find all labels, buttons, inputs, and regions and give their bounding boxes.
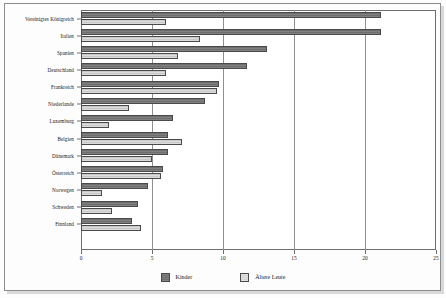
x-axis-tick-label: 10 bbox=[220, 255, 225, 261]
bar-aeltere-leute bbox=[81, 122, 109, 128]
bar-kinder bbox=[81, 149, 168, 155]
bar-aeltere-leute bbox=[81, 173, 161, 179]
y-axis-label: Belgien bbox=[58, 136, 75, 142]
bar-row bbox=[81, 147, 436, 164]
bar-row bbox=[81, 61, 436, 78]
legend-swatch-aeltere-icon bbox=[240, 273, 249, 282]
bar-row bbox=[81, 10, 436, 27]
bar-aeltere-leute bbox=[81, 53, 178, 59]
y-axis-label-row: Österreich bbox=[0, 164, 81, 181]
y-tick-mark bbox=[77, 121, 81, 122]
y-tick-mark bbox=[77, 189, 81, 190]
bar-aeltere-leute bbox=[81, 36, 200, 42]
x-axis-tick-label: 5 bbox=[151, 255, 154, 261]
bar-aeltere-leute bbox=[81, 225, 141, 231]
bar-kinder bbox=[81, 81, 219, 87]
bar-row bbox=[81, 27, 436, 44]
y-axis-label-row: Frankreich bbox=[0, 79, 81, 96]
x-tick-mark bbox=[365, 250, 366, 254]
bar-aeltere-leute bbox=[81, 139, 182, 145]
bar-aeltere-leute bbox=[81, 156, 152, 162]
y-axis-label-row: Luxemburg bbox=[0, 113, 81, 130]
legend-swatch-kinder-icon bbox=[161, 273, 170, 282]
y-axis-label-row: Norwegen bbox=[0, 181, 81, 198]
bar-kinder bbox=[81, 201, 138, 207]
bar-aeltere-leute bbox=[81, 105, 129, 111]
chart-legend: KinderÄltere Leute bbox=[0, 270, 446, 284]
bar-row bbox=[81, 181, 436, 198]
y-axis-label: Spanien bbox=[57, 50, 74, 56]
x-axis-ticks: 0510152025 bbox=[81, 250, 436, 264]
y-axis-label-row: Belgien bbox=[0, 130, 81, 147]
y-tick-mark bbox=[77, 155, 81, 156]
bar-rows bbox=[81, 10, 436, 250]
bar-row bbox=[81, 44, 436, 61]
bar-kinder bbox=[81, 166, 163, 172]
x-tick-mark bbox=[436, 250, 437, 254]
legend-item-aeltere[interactable]: Ältere Leute bbox=[240, 273, 285, 282]
y-axis-label: Norwegen bbox=[52, 187, 74, 193]
bar-kinder bbox=[81, 183, 148, 189]
y-tick-mark bbox=[77, 35, 81, 36]
bar-kinder bbox=[81, 132, 168, 138]
y-axis-label: Luxemburg bbox=[49, 118, 74, 124]
y-axis-labels: Vereinigtes KönigreichItalienSpanienDeut… bbox=[0, 10, 81, 250]
y-axis-label-row: Vereinigtes Königreich bbox=[0, 10, 81, 27]
bar-row bbox=[81, 130, 436, 147]
x-axis-tick-label: 25 bbox=[433, 255, 438, 261]
chart-container: Vereinigtes KönigreichItalienSpanienDeut… bbox=[0, 0, 446, 298]
y-axis-label: Italien bbox=[60, 33, 74, 39]
y-tick-mark bbox=[77, 172, 81, 173]
y-axis-label: Deutschland bbox=[48, 67, 74, 73]
y-axis-label: Schweden bbox=[52, 204, 74, 210]
y-axis-label: Niederlande bbox=[48, 101, 74, 107]
x-axis-tick-label: 20 bbox=[362, 255, 367, 261]
x-tick-mark bbox=[294, 250, 295, 254]
y-axis-label-row: Spanien bbox=[0, 44, 81, 61]
x-tick-mark bbox=[152, 250, 153, 254]
y-axis-label: Dänemark bbox=[52, 153, 74, 159]
legend-label: Ältere Leute bbox=[255, 274, 285, 280]
bar-row bbox=[81, 113, 436, 130]
x-axis-tick-label: 0 bbox=[80, 255, 83, 261]
y-tick-mark bbox=[77, 69, 81, 70]
y-tick-mark bbox=[77, 138, 81, 139]
bar-aeltere-leute bbox=[81, 190, 102, 196]
bar-aeltere-leute bbox=[81, 70, 166, 76]
y-axis-label-row: Italien bbox=[0, 27, 81, 44]
bar-kinder bbox=[81, 12, 381, 18]
y-tick-mark bbox=[77, 104, 81, 105]
y-axis-label: Österreich bbox=[52, 170, 74, 176]
y-tick-mark bbox=[77, 52, 81, 53]
x-tick-mark bbox=[81, 250, 82, 254]
bar-kinder bbox=[81, 218, 132, 224]
y-tick-mark bbox=[77, 18, 81, 19]
bar-aeltere-leute bbox=[81, 88, 217, 94]
bar-row bbox=[81, 216, 436, 233]
bar-row bbox=[81, 79, 436, 96]
bar-aeltere-leute bbox=[81, 208, 112, 214]
bar-kinder bbox=[81, 98, 205, 104]
legend-label: Kinder bbox=[176, 274, 193, 280]
bar-kinder bbox=[81, 29, 381, 35]
y-axis-label: Frankreich bbox=[51, 84, 74, 90]
y-tick-mark bbox=[77, 87, 81, 88]
y-axis-label-row: Niederlande bbox=[0, 96, 81, 113]
bar-kinder bbox=[81, 46, 267, 52]
y-tick-mark bbox=[77, 224, 81, 225]
bar-kinder bbox=[81, 115, 173, 121]
bar-row bbox=[81, 164, 436, 181]
x-axis-tick-label: 15 bbox=[291, 255, 296, 261]
y-tick-mark bbox=[77, 207, 81, 208]
y-axis-label-row: Schweden bbox=[0, 199, 81, 216]
x-tick-mark bbox=[223, 250, 224, 254]
bar-row bbox=[81, 199, 436, 216]
y-axis-label: Vereinigtes Königreich bbox=[25, 16, 74, 22]
bar-aeltere-leute bbox=[81, 19, 166, 25]
y-axis-label-row: Finnland bbox=[0, 216, 81, 233]
y-axis-label-row: Deutschland bbox=[0, 61, 81, 78]
y-axis-label-row: Dänemark bbox=[0, 147, 81, 164]
legend-item-kinder[interactable]: Kinder bbox=[161, 273, 193, 282]
bar-row bbox=[81, 96, 436, 113]
bar-kinder bbox=[81, 63, 247, 69]
